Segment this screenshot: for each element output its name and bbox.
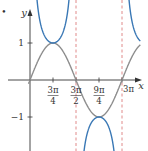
y-axis-label: y xyxy=(20,7,27,18)
curve-csc-0 xyxy=(36,0,71,43)
x-tick-label-num-0: 3π xyxy=(48,85,59,95)
x-tick-label-den-1: 2 xyxy=(73,96,78,106)
vertical-asymptotes xyxy=(76,0,122,151)
x-tick-label-num-2: 9π xyxy=(94,85,105,95)
x-axis-label: x xyxy=(138,80,144,91)
y-tick-label-1: −1 xyxy=(11,112,24,122)
bullet-marker: • xyxy=(1,7,6,17)
y-tick-label-0: 1 xyxy=(18,38,24,48)
x-tick-label-num-1: 3π xyxy=(71,85,82,95)
curve-csc-1 xyxy=(82,117,116,151)
curves xyxy=(28,0,140,151)
x-tick-label-3: 3π xyxy=(123,84,134,94)
y-axis-arrow-icon xyxy=(28,9,33,16)
curve-csc-2 xyxy=(128,0,141,41)
csc-sin-graph: 3π43π29π43π1−1xy• xyxy=(0,0,148,151)
labels: 3π43π29π43π1−1xy• xyxy=(1,7,144,122)
x-tick-label-den-0: 4 xyxy=(50,96,55,106)
x-tick-label-den-2: 4 xyxy=(96,96,101,106)
